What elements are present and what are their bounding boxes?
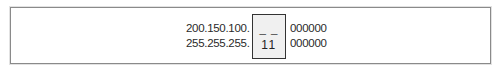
highlighted-bits-box: _ _ 11 <box>252 14 286 59</box>
subnet-mask-prefix: 255.255.255. <box>186 36 242 50</box>
ip-address-prefix: 200.150.100. <box>186 21 242 35</box>
mask-highlight-bits: 11 <box>253 38 285 52</box>
subnet-mask-suffix: 000000 <box>290 36 327 50</box>
ip-highlight-bits: _ _ <box>253 23 285 35</box>
ip-address-suffix: 000000 <box>290 21 327 35</box>
diagram-frame <box>10 7 491 64</box>
